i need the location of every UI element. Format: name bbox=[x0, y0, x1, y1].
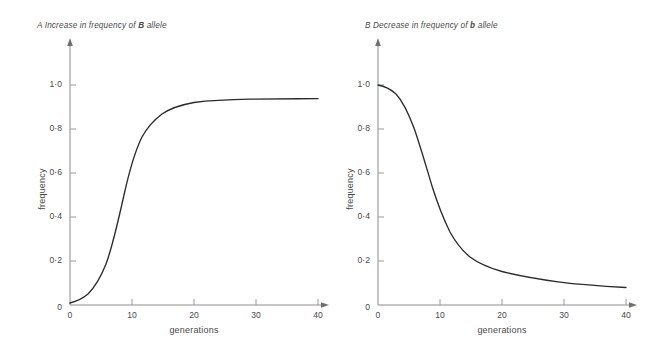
panel-b-xtick-label-10: 10 bbox=[425, 310, 455, 320]
panel-a-x-axis-label: generations bbox=[134, 325, 254, 335]
panel-b-xtick-label-30: 30 bbox=[549, 310, 579, 320]
chart-panel-a: A Increase in frequency of B allele freq… bbox=[0, 0, 327, 354]
panel-a-ytick-label-06: 0·6 bbox=[32, 167, 62, 177]
panel-a-curve bbox=[70, 99, 318, 303]
panel-a-y-axis-arrowhead bbox=[67, 38, 73, 46]
panel-b-curve bbox=[378, 85, 626, 288]
panel-b-ytick-label-1: 1·0 bbox=[340, 79, 370, 89]
panel-b-ytick-label-02: 0·2 bbox=[340, 255, 370, 265]
panel-a-ytick-label-02: 0·2 bbox=[32, 255, 62, 265]
panel-b-xtick-label-40: 40 bbox=[611, 310, 641, 320]
panel-b-ytick-label-04: 0·4 bbox=[340, 211, 370, 221]
panel-b-plot bbox=[328, 0, 655, 354]
chart-panel-b: B Decrease in frequency of b allele freq… bbox=[328, 0, 655, 354]
panel-b-y-axis-arrowhead bbox=[375, 38, 381, 46]
panel-b-x-axis-label: generations bbox=[442, 325, 562, 335]
panel-a-xtick-label-30: 30 bbox=[241, 310, 271, 320]
panel-a-xtick-label-20: 20 bbox=[179, 310, 209, 320]
panel-b-x-axis-arrowhead bbox=[629, 302, 637, 308]
panel-b-xtick-label-20: 20 bbox=[487, 310, 517, 320]
panel-b-xtick-label-0: 0 bbox=[363, 310, 393, 320]
panel-b-ytick-label-06: 0·6 bbox=[340, 167, 370, 177]
figure-container: A Increase in frequency of B allele freq… bbox=[0, 0, 655, 354]
panel-a-ytick-label-08: 0·8 bbox=[32, 123, 62, 133]
panel-a-ytick-label-04: 0·4 bbox=[32, 211, 62, 221]
panel-a-plot bbox=[0, 0, 327, 354]
panel-a-ytick-label-1: 1·0 bbox=[32, 79, 62, 89]
panel-b-ytick-label-08: 0·8 bbox=[340, 123, 370, 133]
panel-a-xtick-label-10: 10 bbox=[117, 310, 147, 320]
panel-a-xtick-label-0: 0 bbox=[55, 310, 85, 320]
